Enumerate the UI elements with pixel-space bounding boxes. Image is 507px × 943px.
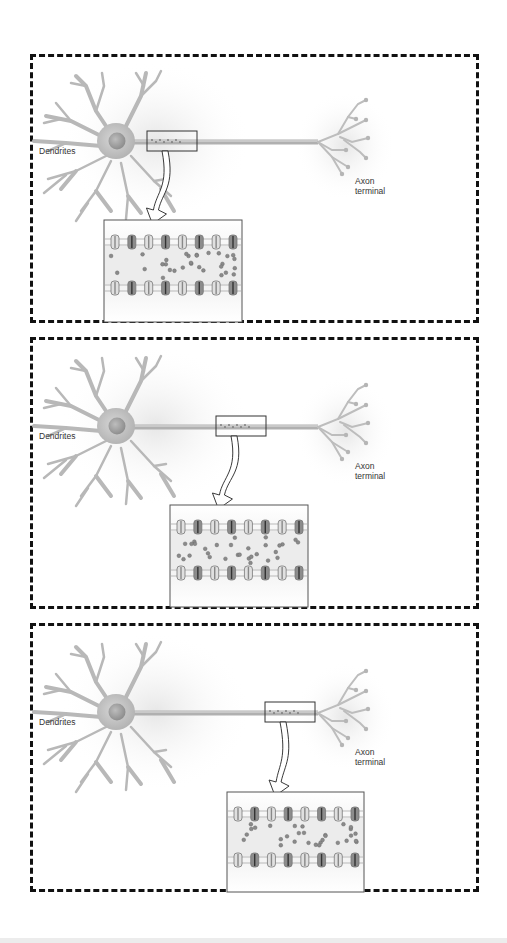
axon-terminal-label-line: Axon [355, 747, 385, 757]
ion-dot [273, 712, 275, 714]
ion [215, 543, 219, 547]
ion [193, 542, 197, 546]
ion-dot [297, 712, 299, 714]
nucleus [109, 704, 126, 721]
ion [255, 552, 259, 556]
ion [278, 544, 282, 548]
ion [249, 561, 253, 565]
synaptic-bouton [366, 421, 370, 425]
synaptic-bouton [344, 148, 348, 152]
axon-terminal-label-line: terminal [355, 757, 385, 767]
dendrite-branch [76, 488, 88, 506]
synaptic-bouton [364, 156, 368, 160]
axon-terminal-label-line: terminal [355, 186, 385, 196]
ion [336, 841, 340, 845]
synaptic-bouton [364, 403, 368, 407]
synaptic-bouton [346, 165, 350, 169]
ion [314, 843, 318, 847]
synaptic-bouton [344, 719, 348, 723]
ion [294, 538, 298, 542]
bottom-edge [0, 938, 507, 943]
ion [181, 266, 185, 270]
ion [349, 834, 353, 838]
ion-dot [175, 139, 177, 141]
ion [274, 550, 278, 554]
ion-dot [281, 712, 283, 714]
axon-interior [171, 531, 307, 569]
ion [197, 265, 201, 269]
ion [249, 827, 253, 831]
synaptic-bouton [340, 172, 344, 176]
synaptic-bouton [364, 118, 368, 122]
synaptic-bouton [354, 402, 358, 406]
ion-dot [167, 139, 169, 141]
ion-dot [277, 710, 279, 712]
synaptic-bouton [364, 383, 368, 387]
synaptic-bouton [364, 441, 368, 445]
ion [173, 269, 177, 273]
ion [249, 555, 253, 559]
ion [206, 551, 210, 555]
ion [233, 536, 237, 540]
ion [293, 840, 297, 844]
ion-dot [244, 424, 246, 426]
dendrite-branch [44, 404, 61, 408]
ion-dot [224, 426, 226, 428]
neuron-illustrations [0, 0, 507, 943]
ion-dot [232, 426, 234, 428]
ion [302, 831, 306, 835]
ion-dot [240, 426, 242, 428]
ion [233, 266, 237, 270]
dendrites-label: Dendrites [39, 146, 75, 156]
ion [177, 554, 181, 558]
ion-dot [236, 424, 238, 426]
ion-dot [289, 712, 291, 714]
axon-terminal-label: Axonterminal [355, 176, 385, 196]
ion [268, 824, 272, 828]
ion [225, 254, 229, 258]
synaptic-bouton [346, 736, 350, 740]
synaptic-bouton [354, 688, 358, 692]
ion [317, 843, 321, 847]
ion [188, 554, 192, 558]
ion [207, 251, 211, 255]
ion [266, 559, 270, 563]
dendrite-branch [44, 119, 61, 123]
ion [264, 535, 268, 539]
axon-terminal-label-line: Axon [355, 176, 385, 186]
ion [231, 253, 235, 257]
ion [345, 839, 349, 843]
axon-terminal-label: Axonterminal [355, 461, 385, 481]
axon-terminal-label-line: terminal [355, 471, 385, 481]
ion-dot [293, 710, 295, 712]
ion-dot [155, 141, 157, 143]
synaptic-bouton [364, 98, 368, 102]
dendrite-branch [44, 690, 61, 694]
synaptic-bouton [354, 117, 358, 121]
ion [242, 838, 246, 842]
ion [264, 543, 268, 547]
ion [307, 841, 311, 845]
ion [115, 271, 119, 275]
ion [238, 553, 242, 557]
synaptic-bouton [364, 669, 368, 673]
ion [217, 251, 221, 255]
ion [168, 268, 172, 272]
ion [195, 254, 199, 258]
magnify-arrow [269, 722, 289, 796]
ion [161, 276, 165, 280]
ion [279, 837, 283, 841]
ion [293, 824, 297, 828]
ion-dot [179, 141, 181, 143]
ion [143, 267, 147, 271]
ion [354, 839, 358, 843]
ion-dot [151, 139, 153, 141]
ion-dot [171, 141, 173, 143]
ion [201, 269, 205, 273]
ion [203, 547, 207, 551]
synaptic-bouton [340, 457, 344, 461]
synaptic-bouton [364, 689, 368, 693]
ion [219, 265, 223, 269]
ion [224, 271, 228, 275]
ion [349, 825, 353, 829]
